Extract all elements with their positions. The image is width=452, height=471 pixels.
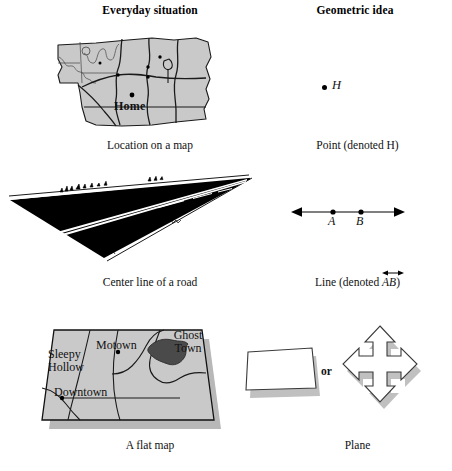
column-header-geometric-idea: Geometric idea [280, 4, 430, 16]
plane-parallelogram [246, 348, 316, 390]
caption-plane: Plane [270, 439, 445, 451]
junction-dot-1 [116, 73, 119, 76]
flat-map-label-hollow: Hollow [48, 361, 84, 374]
caption-line-denoted-ab: Line (denoted AB) [270, 276, 445, 288]
line-label-a: A [328, 214, 335, 229]
junction-dot-5 [99, 62, 102, 65]
four-way-arrow [343, 326, 417, 402]
state-map-svg [56, 33, 216, 133]
plane-or-connector-label: or [321, 365, 332, 377]
flat-map-label-downtown: Downtown [54, 385, 107, 400]
flat-map-label-motown: Motown [96, 338, 137, 353]
caption-line-suffix: ) [396, 276, 400, 288]
home-marker-dot [130, 93, 135, 98]
caption-line-denoted: AB [382, 276, 396, 288]
home-marker-label: Home [114, 99, 145, 114]
state-map-illustration: Home [56, 33, 216, 133]
flat-map-label-town: Town [162, 342, 214, 355]
line-vector-notation: AB [382, 276, 396, 288]
junction-dot-4 [158, 55, 161, 58]
column-header-everyday-situation: Everyday situation [60, 4, 240, 16]
flat-map-label-ghost-town: Ghost Town [162, 329, 214, 355]
caption-point-denoted-h: Point (denoted H) [270, 139, 445, 151]
road-svg [8, 168, 258, 263]
line-point-labels: A B [288, 214, 408, 232]
caption-line-prefix: Line (denoted [315, 276, 382, 288]
line-label-b: B [356, 214, 363, 229]
point-dot [322, 85, 327, 90]
flat-map-label-sleepy-hollow: Sleepy Hollow [48, 348, 84, 374]
plane-svg [243, 322, 443, 427]
point-illustration: H [300, 74, 370, 100]
junction-dot-3 [146, 65, 149, 68]
point-label-h: H [332, 78, 341, 93]
figure-page: Everyday situation Geometric idea [0, 0, 452, 471]
caption-center-line-of-a-road: Center line of a road [40, 276, 260, 288]
road-illustration [8, 168, 258, 263]
vector-overline-double-arrow-icon [382, 269, 404, 276]
junction-dot-2 [146, 75, 149, 78]
caption-a-flat-map: A flat map [40, 439, 260, 451]
caption-location-on-a-map: Location on a map [40, 139, 260, 151]
plane-illustration [243, 322, 443, 427]
flat-map-illustration: Sleepy Hollow Motown Ghost Town Downtown [32, 316, 232, 431]
